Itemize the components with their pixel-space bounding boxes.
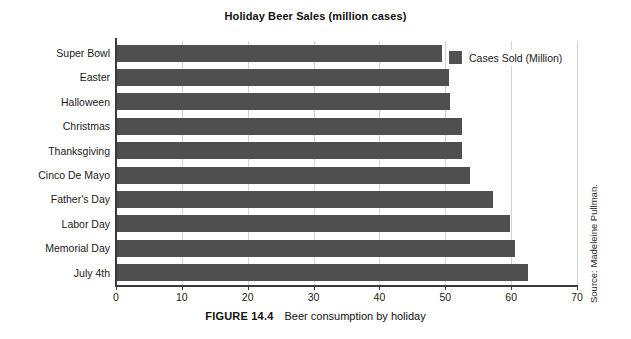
figure-container: Holiday Beer Sales (million cases) Super…: [0, 0, 631, 339]
x-axis-tick: [511, 285, 512, 290]
figure-number: FIGURE 14.4: [205, 310, 273, 322]
bar-row: [116, 114, 577, 138]
x-axis-tick-label: 70: [557, 291, 597, 303]
x-axis-tick-label: 0: [96, 291, 136, 303]
y-axis-category-label: Cinco De Mayo: [0, 163, 110, 187]
legend-label: Cases Sold (Million): [469, 52, 562, 64]
bar-row: [116, 90, 577, 114]
y-axis-category-label: Memorial Day: [0, 236, 110, 260]
x-axis-tick: [445, 285, 446, 290]
bar-row: [116, 236, 577, 260]
x-axis-tick-label: 60: [491, 291, 531, 303]
bar: [116, 118, 462, 135]
y-axis-category-label: Labor Day: [0, 212, 110, 236]
gridline: [577, 41, 578, 285]
bar: [116, 264, 528, 281]
y-axis-line: [115, 38, 117, 287]
y-axis-category-label: Super Bowl: [0, 41, 110, 65]
chart-legend: Cases Sold (Million): [447, 49, 565, 66]
x-axis-line: [115, 285, 578, 287]
y-axis-category-label: Halloween: [0, 90, 110, 114]
y-axis-category-label: Easter: [0, 65, 110, 89]
bar: [116, 69, 449, 86]
bar-row: [116, 163, 577, 187]
x-axis-tick-label: 10: [162, 291, 202, 303]
y-axis-category-labels: Super BowlEasterHalloweenChristmasThanks…: [0, 41, 112, 285]
x-axis-tick-label: 40: [359, 291, 399, 303]
y-axis-category-label: Christmas: [0, 114, 110, 138]
bar-row: [116, 261, 577, 285]
bar: [116, 215, 510, 232]
x-axis-tick-label: 50: [425, 291, 465, 303]
y-axis-category-label: Thanksgiving: [0, 139, 110, 163]
x-axis-tick: [248, 285, 249, 290]
x-axis-tick: [182, 285, 183, 290]
x-axis-tick: [314, 285, 315, 290]
y-axis-category-label: July 4th: [0, 261, 110, 285]
bar-row: [116, 212, 577, 236]
x-axis-tick: [577, 285, 578, 290]
y-axis-category-label: Father's Day: [0, 187, 110, 211]
bar: [116, 240, 515, 257]
figure-caption-text: Beer consumption by holiday: [284, 310, 425, 322]
figure-caption: FIGURE 14.4Beer consumption by holiday: [0, 310, 631, 322]
bar-row: [116, 139, 577, 163]
bar: [116, 93, 450, 110]
bar: [116, 142, 462, 159]
x-axis-tick-label: 20: [228, 291, 268, 303]
bar: [116, 191, 493, 208]
x-axis-tick: [379, 285, 380, 290]
legend-swatch-icon: [449, 51, 462, 64]
bar: [116, 167, 470, 184]
chart-title: Holiday Beer Sales (million cases): [0, 10, 631, 22]
source-note: Source: Madeleine Pullman.: [588, 184, 599, 303]
bar: [116, 45, 442, 62]
x-axis-tick-label: 30: [294, 291, 334, 303]
bar-row: [116, 65, 577, 89]
bar-row: [116, 187, 577, 211]
x-axis-tick: [116, 285, 117, 290]
plot-area: [116, 41, 577, 285]
